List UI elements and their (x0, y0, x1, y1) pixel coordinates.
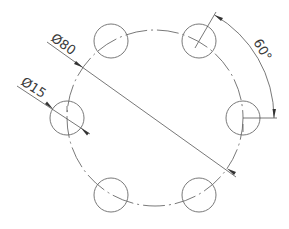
technical-drawing: Ø80 Ø15 60° (0, 0, 289, 229)
extension-line-top-right (199, 12, 216, 41)
arrow-icon (215, 15, 224, 21)
dimension-hole-diameter: Ø15 (17, 74, 90, 136)
hole-leader-line (17, 86, 90, 134)
dimension-label-angle: 60° (250, 36, 275, 63)
hole-top-left (94, 24, 128, 58)
bolt-circle (67, 30, 243, 206)
angle-arc (215, 15, 275, 118)
hole-bottom-right (182, 178, 216, 212)
arrow-icon (81, 128, 89, 136)
arrow-icon (273, 109, 277, 118)
center-mark-top-right (195, 41, 199, 48)
holes (50, 24, 260, 212)
hole-bottom-left (94, 178, 128, 212)
